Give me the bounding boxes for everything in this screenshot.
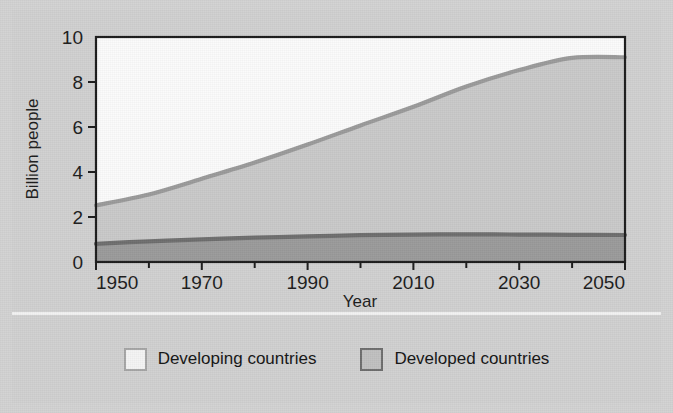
chart-panel: 195019701990201020302050 0246810 Year Bi…: [12, 10, 661, 312]
y-axis-tick-label: 2: [72, 207, 83, 228]
figure-frame: 195019701990201020302050 0246810 Year Bi…: [12, 10, 661, 403]
x-axis-ticks: [96, 262, 625, 270]
x-axis-tick-label: 2050: [583, 272, 625, 293]
x-axis-tick-label: 1970: [181, 272, 223, 293]
x-axis-tick-label: 1990: [286, 272, 328, 293]
y-axis-tick-labels: 0246810: [62, 27, 84, 273]
y-axis-tick-label: 6: [72, 117, 83, 138]
x-axis-tick-label: 2010: [392, 272, 434, 293]
legend-entry-developed[interactable]: Developed countries: [360, 348, 549, 371]
x-axis-tick-label: 1950: [96, 272, 138, 293]
legend-entry-developing[interactable]: Developing countries: [124, 348, 317, 371]
x-axis-tick-label: 2030: [498, 272, 540, 293]
chart-legend: Developing countries Developed countries: [12, 315, 661, 403]
y-axis-title: Billion people: [23, 98, 42, 199]
light-box-swatch-icon: [124, 348, 147, 371]
population-area-chart: 195019701990201020302050 0246810 Year Bi…: [12, 10, 661, 312]
grey-box-swatch-icon: [360, 348, 383, 371]
y-axis-ticks: [88, 82, 96, 217]
x-axis-title: Year: [343, 292, 378, 311]
legend-label-developed: Developed countries: [394, 349, 549, 369]
x-axis-tick-labels: 195019701990201020302050: [96, 272, 625, 293]
y-axis-tick-label: 4: [72, 162, 83, 183]
y-axis-tick-label: 10: [62, 27, 83, 48]
y-axis-tick-label: 0: [72, 252, 83, 273]
figure-page: 195019701990201020302050 0246810 Year Bi…: [0, 0, 673, 413]
legend-label-developing: Developing countries: [158, 349, 317, 369]
y-axis-tick-label: 8: [72, 72, 83, 93]
